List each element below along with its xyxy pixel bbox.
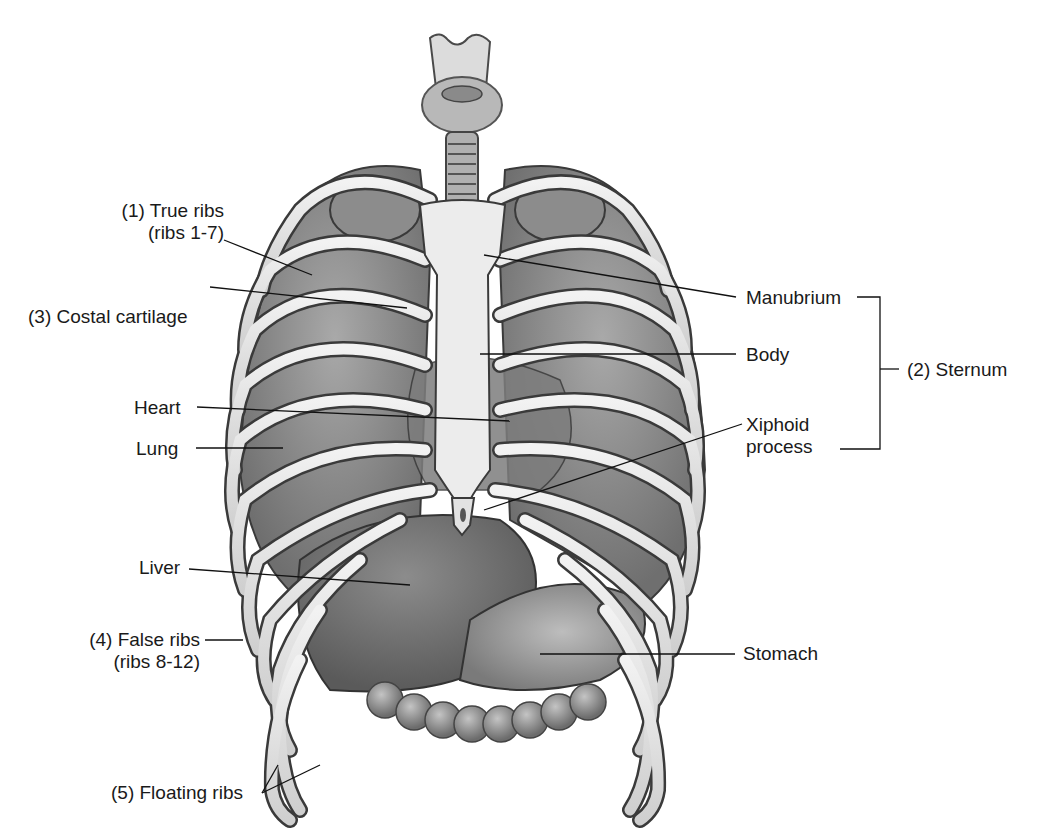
label-xiphoid-process: Xiphoid process bbox=[746, 414, 813, 458]
label-sternum-group: (2) Sternum bbox=[907, 359, 1007, 381]
label-liver: Liver bbox=[139, 557, 180, 579]
label-floating-ribs: (5) Floating ribs bbox=[111, 782, 243, 804]
thoracic-cage-diagram: (1) True ribs (ribs 1-7) (3) Costal cart… bbox=[0, 0, 1050, 836]
label-false-ribs: (4) False ribs (ribs 8-12) bbox=[70, 629, 200, 673]
label-manubrium: Manubrium bbox=[746, 287, 841, 309]
label-stomach: Stomach bbox=[743, 643, 818, 665]
label-body: Body bbox=[746, 344, 789, 366]
label-true-ribs: (1) True ribs (ribs 1-7) bbox=[90, 200, 224, 244]
label-heart: Heart bbox=[134, 397, 180, 419]
label-costal-cartilage: (3) Costal cartilage bbox=[28, 306, 187, 328]
label-lung: Lung bbox=[136, 438, 178, 460]
larynx-trachea bbox=[422, 34, 502, 210]
